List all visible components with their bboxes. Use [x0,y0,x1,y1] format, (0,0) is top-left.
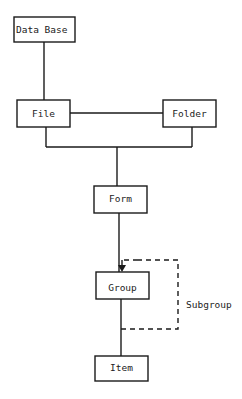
hierarchy-diagram: Data Base File Folder Form Group Item Su… [0,0,242,399]
node-database-label: Data Base [16,24,68,35]
node-group-label: Group [108,282,137,293]
node-form: Form [94,186,147,213]
node-database: Data Base [14,17,75,42]
node-folder: Folder [163,100,216,127]
node-file-label: File [32,108,55,119]
node-form-label: Form [109,193,132,204]
node-file: File [17,100,70,127]
subgroup-label: Subgroup [186,299,232,310]
node-item-label: Item [110,362,133,373]
node-folder-label: Folder [172,108,207,119]
node-group: Group [96,272,149,299]
node-item: Item [95,356,148,381]
